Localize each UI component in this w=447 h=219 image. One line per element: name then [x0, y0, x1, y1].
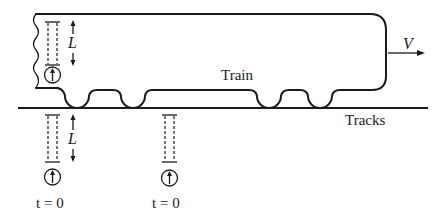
ground-light-clock-left	[45, 115, 61, 185]
photon-arrow-icon	[167, 171, 172, 176]
tracks-label: Tracks	[345, 112, 385, 128]
arrow-right-icon	[417, 50, 425, 56]
velocity-arrow: V	[388, 35, 425, 56]
velocity-label: V	[403, 35, 415, 52]
length-label-train: L	[67, 34, 77, 51]
train-light-clock-diagram: L L t = 0 t = 0 Train Tracks V	[0, 0, 447, 219]
train-body	[34, 14, 387, 108]
time-label-left: t = 0	[36, 195, 64, 211]
ground-light-clock-right	[162, 115, 178, 186]
train-length-marker: L	[67, 20, 77, 66]
photon-arrow-icon	[50, 68, 55, 73]
length-label-ground: L	[67, 130, 77, 147]
photon-arrow-icon	[50, 170, 55, 175]
train-label: Train	[221, 67, 253, 83]
train-light-clock	[45, 22, 61, 83]
ground-length-marker: L	[67, 114, 77, 162]
time-label-right: t = 0	[152, 195, 180, 211]
